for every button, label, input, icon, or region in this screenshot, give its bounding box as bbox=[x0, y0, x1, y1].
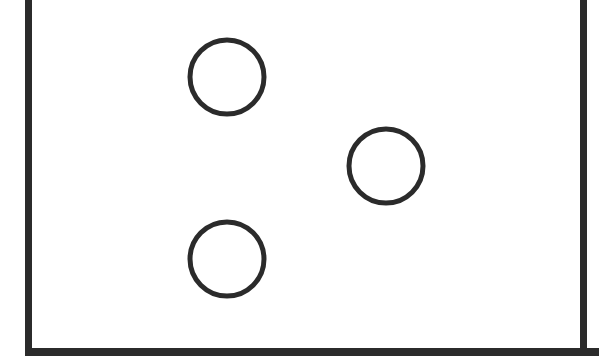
circle-1 bbox=[190, 40, 264, 114]
circle-3 bbox=[190, 222, 264, 296]
circle-2 bbox=[349, 129, 423, 203]
circles-canvas bbox=[0, 0, 599, 356]
